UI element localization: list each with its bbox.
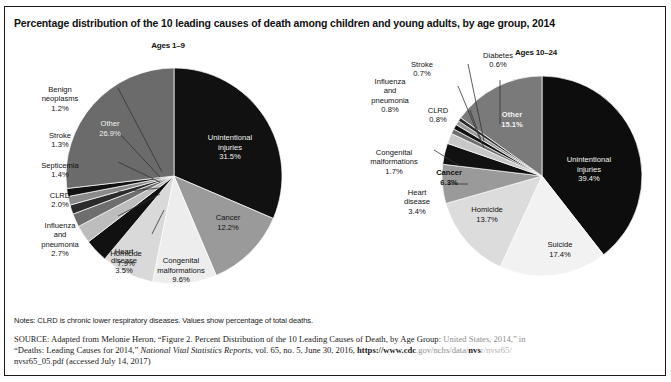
source-url-a: https://www.cdc (357, 345, 416, 355)
source-text-1: Adapted from Melonie Heron, “Figure 2. P… (49, 334, 441, 344)
source-text-3: nvsr65_05.pdf (accessed July 14, 2017) (14, 356, 151, 366)
pie-label-text: Congenitalmalformations1.7% (370, 148, 418, 176)
pie-label-text: Cancer12.2% (216, 213, 241, 232)
pie-label-text: Other15.1% (501, 110, 523, 129)
pie-chart-ages-1-9: Heartdisease3.5%Influenzaandpneumonia2.7… (14, 58, 344, 308)
pie-label-text: Influenzaandpneumonia0.8% (371, 77, 409, 114)
figure-notes: Notes: CLRD is chronic lower respiratory… (14, 316, 654, 325)
pie-label-text: Suicide17.4% (548, 240, 573, 259)
source-label: SOURCE: (14, 335, 49, 344)
chart-title-left: Ages 1–9 (108, 41, 228, 50)
pie-label-text: Influenzaandpneumonia2.7% (41, 221, 79, 258)
pie-label-text: CLRD0.8% (428, 106, 449, 124)
figure-title: Percentage distribution of the 10 leadin… (14, 17, 654, 29)
source-journal: National Vital Statistics Reports (140, 345, 250, 355)
pie-label-text: Stroke1.3% (49, 131, 71, 149)
source-vol: , vol. 65, no. 5, June 30, 2016, (251, 345, 357, 355)
source-url-c: nvs (468, 345, 480, 355)
pie-label-text: Other26.9% (99, 119, 121, 138)
source-text-1-faded: United States, 2014,” in (441, 334, 526, 344)
pie-label-text: Benignneoplasms1.2% (42, 85, 79, 113)
source-quote: “Deaths: Leading Causes for 2014,” (14, 345, 140, 355)
figure-source: SOURCE: Adapted from Melonie Heron, “Fig… (14, 334, 658, 368)
source-url-b: .gov/nchs/data/ (416, 345, 468, 355)
figure-container: Percentage distribution of the 10 leadin… (0, 0, 671, 382)
pie-label-text: Stroke0.7% (411, 60, 433, 78)
pie-label-text: Heartdisease3.4% (404, 188, 430, 216)
pie-chart-ages-10-24: Heartdisease3.4%Congenitalmalformations1… (372, 62, 662, 307)
source-url-d: r/nvsr65/ (481, 345, 512, 355)
pie-label-text: CLRD2.0% (50, 191, 71, 209)
